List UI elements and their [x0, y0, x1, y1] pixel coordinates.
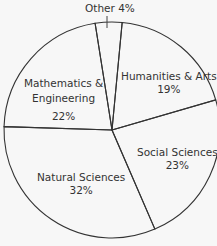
humanities-name: Humanities & Arts [121, 70, 217, 83]
label-math: Mathematics & Engineering 22% [24, 76, 103, 124]
social-name: Social Sciences [137, 146, 217, 159]
math-name-1: Mathematics & [24, 76, 103, 91]
label-humanities: Humanities & Arts 19% [121, 70, 217, 96]
label-social: Social Sciences 23% [137, 146, 217, 172]
social-pct: 23% [137, 159, 217, 172]
label-natural: Natural Sciences 32% [37, 171, 125, 197]
natural-pct: 32% [37, 184, 125, 197]
pie-slices [4, 22, 217, 238]
humanities-pct: 19% [121, 83, 217, 96]
math-pct: 22% [24, 109, 103, 124]
math-name-2: Engineering [24, 91, 103, 106]
label-other: Other 4% [85, 2, 135, 15]
natural-name: Natural Sciences [37, 171, 125, 184]
